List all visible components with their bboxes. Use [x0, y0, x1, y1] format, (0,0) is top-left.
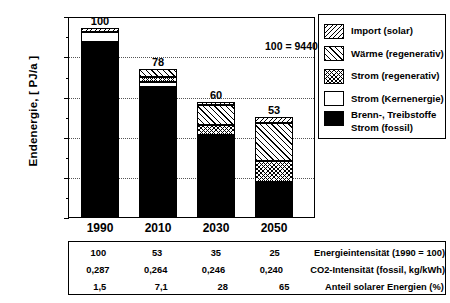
segment-strom-regenerativ	[139, 77, 177, 82]
table-row: 100 53 35 25 Energieintensität (1990 = 1…	[69, 244, 445, 261]
bar-1990: 100	[81, 28, 119, 217]
bar-2030: 60	[197, 102, 235, 217]
segment-waerme-regenerativ	[197, 105, 235, 125]
table-cell: 28	[192, 282, 254, 292]
axis-tick-major	[64, 218, 69, 219]
table-row: 0,287 0,264 0,246 0,240 CO2-Intensität (…	[69, 261, 445, 278]
table-row-description: Energieintensität (1990 = 100)	[314, 248, 445, 258]
legend-item-strom-regenerativ: Strom (regenerativ)	[324, 65, 445, 88]
table-cell: 0,287	[69, 265, 127, 275]
segment-import	[255, 117, 293, 123]
axis-tick-minor	[66, 37, 69, 38]
axis-tick-major	[64, 17, 69, 18]
segment-fossil	[255, 182, 293, 217]
table-cell: 1,5	[69, 282, 131, 292]
table-cell: 100	[69, 248, 128, 258]
legend-item-import: Import (solar)	[324, 20, 445, 43]
axis-tick-minor	[66, 118, 69, 119]
legend-label: Strom (regenerativ)	[351, 71, 440, 82]
bar-2050: 53	[255, 117, 293, 217]
table-row-description: Anteil solarer Energien (%)	[325, 282, 444, 292]
table-cell: 25	[245, 248, 304, 258]
legend-item-fossil: Brenn-, Treibstoffe Strom (fossil)	[324, 110, 445, 136]
table-row-description: CO2-Intensität (fossil, kg/kWh)	[310, 265, 445, 275]
segment-waerme-regenerativ	[139, 69, 177, 77]
table-cell: 7,1	[131, 282, 193, 292]
table-row: 1,5 7,1 28 65 Anteil solarer Energien (%…	[69, 278, 445, 295]
legend-item-kernenergie: Strom (Kernenergie)	[324, 88, 445, 111]
segment-nuclear	[139, 82, 177, 87]
data-table: 100 53 35 25 Energieintensität (1990 = 1…	[68, 241, 446, 295]
legend-swatch-fossil-icon	[324, 111, 344, 126]
x-tick-2050: 2050	[239, 221, 309, 235]
legend-swatch-strom-regenerativ-icon	[324, 69, 344, 84]
legend-label: Brenn-, Treibstoffe	[351, 110, 436, 121]
legend-swatch-waerme-icon	[324, 46, 344, 61]
segment-fossil	[197, 135, 235, 217]
segment-fossil	[81, 42, 119, 217]
bar-value-label: 100	[70, 15, 130, 27]
axis-tick-minor	[66, 78, 69, 79]
axis-tick-minor	[66, 198, 69, 199]
segment-waerme-regenerativ	[255, 123, 293, 161]
table-cell: 53	[128, 248, 187, 258]
table-cell: 0,264	[127, 265, 185, 275]
legend-swatch-import-icon	[324, 24, 344, 39]
legend: Import (solar) Wärme (regenerativ) Strom…	[318, 14, 446, 139]
table-cell: 0,240	[242, 265, 300, 275]
segment-import	[197, 102, 235, 105]
bar-value-label: 60	[186, 89, 246, 101]
segment-strom-regenerativ	[255, 161, 293, 182]
legend-label: Import (solar)	[351, 26, 413, 37]
segment-fossil	[139, 87, 177, 217]
legend-label: Wärme (regenerativ)	[351, 49, 444, 60]
y-axis-title: Endenergie, [ PJ/a ]	[27, 16, 39, 206]
legend-swatch-kernenergie-icon	[324, 91, 344, 106]
bar-value-label: 78	[128, 56, 188, 68]
table-cell: 0,246	[185, 265, 243, 275]
chart-figure: Endenergie, [ PJ/a ] 10 000 8 000 6 000 …	[0, 0, 450, 303]
plot-area: 100 = 9440 PJ/a 100 78 60	[68, 17, 315, 218]
segment-nuclear	[81, 32, 119, 42]
legend-item-waerme: Wärme (regenerativ)	[324, 43, 445, 66]
bar-value-label: 53	[244, 104, 304, 116]
segment-strom-regenerativ	[197, 125, 235, 135]
bar-2010: 78	[139, 69, 177, 217]
legend-label: Strom (Kernenergie)	[351, 94, 444, 105]
table-cell: 65	[254, 282, 316, 292]
axis-tick-minor	[66, 158, 69, 159]
segment-import	[81, 28, 119, 32]
table-cell: 35	[187, 248, 246, 258]
legend-label-line2: Strom (fossil)	[351, 123, 436, 134]
